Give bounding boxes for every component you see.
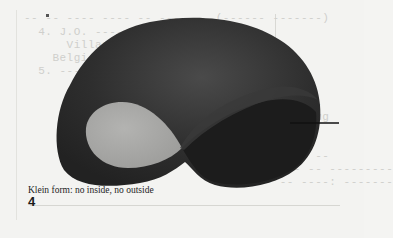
figure-caption: Klein form: no inside, no outside bbox=[28, 185, 154, 195]
figure-number: 4 bbox=[28, 194, 35, 209]
